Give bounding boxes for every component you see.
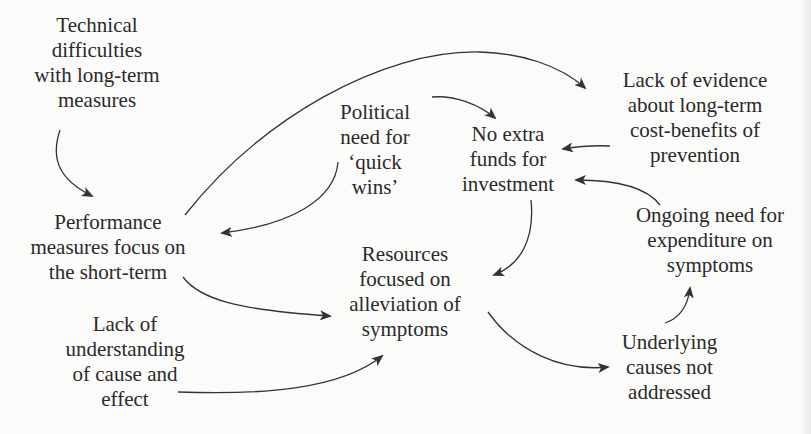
arrow-performance-to-resources [183, 277, 330, 316]
node-technical-difficulties: Technical difficulties with long-term me… [22, 13, 172, 113]
node-underlying-causes: Underlying causes not addressed [612, 330, 727, 405]
arrow-lackunderstanding-to-resources [178, 356, 382, 393]
arrow-ongoing-to-nofunds [576, 180, 660, 205]
arrow-political-to-nofunds [432, 97, 495, 118]
node-no-extra-funds: No extra funds for investment [448, 122, 568, 197]
arrow-political-to-performance [222, 162, 338, 233]
arrow-resources-to-underlying [488, 312, 608, 368]
node-ongoing-need: Ongoing need for expenditure on symptoms [610, 203, 810, 278]
node-lack-of-understanding: Lack of understanding of cause and effec… [50, 312, 200, 412]
node-resources-focused: Resources focused on alleviation of symp… [335, 242, 475, 342]
node-lack-of-evidence: Lack of evidence about long-term cost-be… [595, 68, 795, 168]
arrow-technical-to-performance [56, 130, 92, 196]
arrow-nofunds-to-resources [494, 200, 532, 275]
page-edge-shadow [801, 0, 811, 434]
node-political-need: Political need for ‘quick wins’ [330, 100, 420, 200]
node-performance-measures: Performance measures focus on the short-… [18, 210, 198, 285]
arrow-underlying-to-ongoing [665, 288, 690, 323]
